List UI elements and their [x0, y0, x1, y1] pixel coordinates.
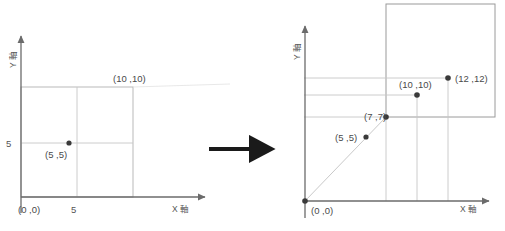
- point-5-5: [66, 140, 71, 145]
- left-label-point-5-5: (5 ,5): [45, 149, 67, 160]
- left-label-origin: (0 ,0): [18, 204, 40, 215]
- right-y-axis-label: Y 軸: [292, 43, 302, 60]
- left-gridlines: [21, 84, 230, 197]
- diagram-canvas: (5 ,5) (10 ,10) (0 ,0) 5 5 X 軸 Y 軸: [0, 0, 505, 231]
- left-x-axis-label: X 軸: [172, 204, 189, 214]
- point-12-12: [445, 75, 451, 81]
- right-x-axis-label: X 軸: [460, 204, 477, 214]
- left-axes: [21, 36, 205, 213]
- point-10-10: [414, 92, 420, 98]
- right-axes: [305, 26, 489, 218]
- right-bounding-rect: [386, 4, 495, 117]
- diagram-svg: (5 ,5) (10 ,10) (0 ,0) 5 5 X 軸 Y 軸: [0, 0, 505, 231]
- point-0-0: [302, 198, 308, 204]
- left-label-point-10-10: (10 ,10): [113, 73, 146, 84]
- right-label-origin: (0 ,0): [311, 205, 333, 216]
- right-label-point-12-12: (12 ,12): [455, 73, 488, 84]
- left-xtick-5: 5: [71, 204, 76, 215]
- left-points: [66, 140, 71, 145]
- right-points: [302, 75, 451, 204]
- right-ray: [305, 117, 386, 201]
- point-5-5: [363, 134, 368, 139]
- left-ytick-5: 5: [6, 138, 11, 149]
- right-label-point-7-7: (7 ,7): [364, 111, 386, 122]
- right-gridlines: [304, 78, 448, 201]
- right-panel: (5 ,5) (7 ,7) (10 ,10) (12 ,12) (0 ,0) X…: [292, 4, 495, 218]
- left-panel: (5 ,5) (10 ,10) (0 ,0) 5 5 X 軸 Y 軸: [6, 36, 230, 215]
- right-label-point-5-5: (5 ,5): [335, 132, 357, 143]
- right-label-point-10-10: (10 ,10): [399, 79, 432, 90]
- left-y-axis-label: Y 軸: [8, 51, 18, 68]
